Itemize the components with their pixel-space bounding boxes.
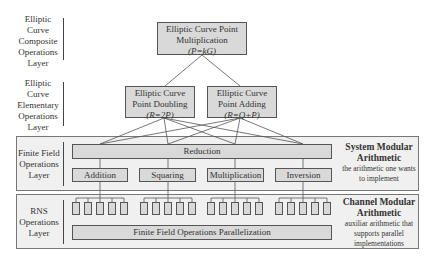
formula: (R=2P) — [146, 110, 174, 120]
box-line: Elliptic Curve — [208, 88, 276, 99]
point-doubling-box: Elliptic Curve Point Doubling (R=2P) — [125, 86, 195, 118]
reduction-box: Reduction — [72, 144, 332, 159]
op-label: Inversion — [287, 170, 321, 180]
rns-channel — [231, 202, 239, 215]
annotation-title: Channel Modular — [340, 197, 418, 208]
annotation-title: Arithmetic — [340, 208, 418, 219]
box-line: Multiplication — [158, 35, 246, 46]
rns-channel — [243, 202, 251, 215]
annotation-desc: auxiliar arithmetic that — [340, 219, 418, 229]
rns-channel — [299, 202, 307, 215]
rns-channel — [255, 202, 263, 215]
rns-channel — [287, 202, 295, 215]
parallelization-label: Finite Field Operations Parallelization — [133, 227, 271, 237]
annotation-desc: implementations — [340, 239, 418, 249]
op-label: Multiplication — [210, 170, 262, 180]
rns-channel — [72, 202, 80, 215]
channel-modular-annotation: Channel Modular Arithmetic auxiliar arit… — [340, 197, 418, 249]
squaring-box: Squaring — [139, 168, 196, 182]
rns-channel — [108, 202, 116, 215]
system-modular-annotation: System Modular Arithmetic the arithmetic… — [340, 142, 418, 184]
rns-channel — [96, 202, 104, 215]
rns-channel — [311, 202, 319, 215]
multiplication-box: Multiplication — [207, 168, 264, 182]
rns-channel — [152, 202, 160, 215]
rns-channel — [140, 202, 148, 215]
box-line: Point Doubling — [126, 99, 194, 110]
op-label: Squaring — [151, 170, 184, 180]
addition-box: Addition — [72, 168, 128, 182]
op-label: Addition — [84, 170, 116, 180]
rns-channel — [275, 202, 283, 215]
annotation-desc: the arithmetic one wants — [340, 164, 418, 174]
box-line: Elliptic Curve — [126, 88, 194, 99]
rns-channel — [188, 202, 196, 215]
annotation-title: Arithmetic — [340, 153, 418, 164]
parallelization-box: Finite Field Operations Parallelization — [72, 225, 332, 240]
point-multiplication-box: Elliptic Curve Point Multiplication (P=k… — [157, 22, 247, 55]
rns-channel — [207, 202, 215, 215]
annotation-title: System Modular — [340, 142, 418, 153]
inversion-box: Inversion — [275, 168, 332, 182]
box-line: Elliptic Curve Point — [158, 24, 246, 35]
reduction-label: Reduction — [184, 146, 221, 156]
box-line: Point Adding — [208, 99, 276, 110]
point-adding-box: Elliptic Curve Point Adding (R=Q+P) — [207, 86, 277, 118]
rns-channel — [176, 202, 184, 215]
rns-channel — [219, 202, 227, 215]
annotation-desc: to implement — [340, 174, 418, 184]
formula: (R=Q+P) — [224, 110, 260, 120]
annotation-desc: supports parallel — [340, 229, 418, 239]
rns-channel — [120, 202, 128, 215]
rns-channel — [323, 202, 331, 215]
rns-channel — [84, 202, 92, 215]
formula: (P=kG) — [188, 46, 216, 56]
rns-channel — [164, 202, 172, 215]
